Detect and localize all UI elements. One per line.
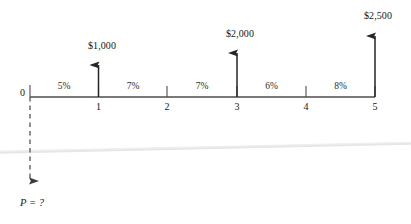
period-label-5: 5 [373, 102, 378, 112]
cash-label-period-3: $2,000 [226, 29, 254, 39]
rate-label-segment-4-5: 8% [334, 82, 347, 92]
cash-label-period-1: $1,000 [88, 41, 116, 51]
cash-label-period-5: $2,500 [364, 11, 392, 21]
period-label-1: 1 [96, 102, 101, 112]
rate-label-segment-1-2: 7% [127, 82, 140, 92]
rate-label-segment-2-3: 7% [196, 82, 209, 92]
period-label-2: 2 [165, 102, 170, 112]
scan-artifact-line [0, 142, 411, 152]
period-label-0: 0 [20, 88, 25, 98]
cash-flow-diagram: 0 1 2 3 4 5 5% 7% 7% 6% 8% $1,000 $2,000… [0, 0, 411, 224]
period-label-3: 3 [235, 102, 240, 112]
present-worth-label: P = ? [20, 198, 44, 209]
period-label-4: 4 [304, 102, 309, 112]
rate-label-segment-0-1: 5% [58, 82, 71, 92]
cash-flow-graphics [0, 0, 411, 224]
rate-label-segment-3-4: 6% [265, 82, 278, 92]
